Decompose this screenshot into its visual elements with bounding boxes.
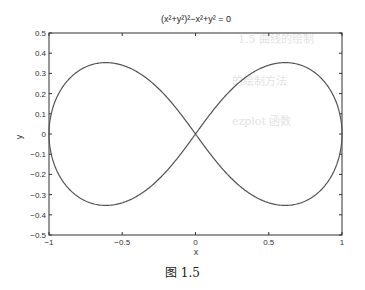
svg-text:0: 0 — [42, 130, 47, 139]
svg-text:0.5: 0.5 — [263, 238, 275, 247]
svg-text:0: 0 — [193, 238, 198, 247]
svg-text:−0.5: −0.5 — [114, 238, 130, 247]
svg-text:0.3: 0.3 — [35, 69, 47, 78]
svg-text:−0.2: −0.2 — [30, 170, 46, 179]
svg-text:−1: −1 — [44, 238, 54, 247]
svg-text:1: 1 — [340, 238, 345, 247]
svg-text:−0.1: −0.1 — [30, 150, 46, 159]
chart: (x²+y²)²−x²+y² = 0 −0.5−0.4−0.3−0.2−0.10… — [0, 0, 365, 290]
lemniscate-curve — [49, 63, 342, 206]
x-axis-label: x — [194, 247, 199, 257]
svg-text:0.5: 0.5 — [35, 29, 47, 38]
y-tick-labels: −0.5−0.4−0.3−0.2−0.100.10.20.30.40.5 — [30, 29, 46, 240]
svg-text:−0.4: −0.4 — [30, 211, 46, 220]
svg-text:0.4: 0.4 — [35, 49, 47, 58]
x-tick-labels: −1−0.500.51 — [44, 238, 344, 247]
y-axis-label: y — [14, 134, 24, 139]
svg-text:0.2: 0.2 — [35, 90, 47, 99]
chart-title: (x²+y²)²−x²+y² = 0 — [161, 14, 231, 24]
figure-caption: 图 1.5 — [0, 263, 365, 280]
svg-text:−0.3: −0.3 — [30, 191, 46, 200]
svg-text:0.1: 0.1 — [35, 110, 47, 119]
